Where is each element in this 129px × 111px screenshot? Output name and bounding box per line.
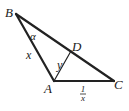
label-B: B xyxy=(5,5,13,20)
label-fraction-den: x xyxy=(80,93,85,103)
label-alpha: α xyxy=(30,30,36,42)
triangle-diagram: B A C D α x y 1 x xyxy=(0,0,129,111)
label-y: y xyxy=(56,58,63,72)
label-C: C xyxy=(114,77,123,92)
label-D: D xyxy=(71,39,82,54)
label-x: x xyxy=(25,48,32,62)
side-AB xyxy=(16,14,54,81)
label-A: A xyxy=(43,81,52,96)
